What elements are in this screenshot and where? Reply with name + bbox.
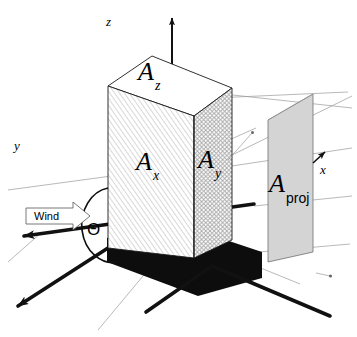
leader-line-proj bbox=[316, 273, 332, 278]
label-Ax-sub: x bbox=[152, 168, 160, 183]
label-Ax-base: A bbox=[134, 147, 152, 176]
label-Aproj-base: A bbox=[267, 169, 285, 198]
label-Ay-sub: y bbox=[213, 166, 222, 181]
label-Az-sub: z bbox=[154, 78, 161, 93]
label-Az-base: A bbox=[136, 57, 154, 86]
diagram-canvas: A z A x A y A proj z y x Θ Wind bbox=[0, 0, 357, 337]
axis-label-z: z bbox=[105, 14, 111, 29]
wind-label: Wind bbox=[34, 210, 59, 222]
wind-area-diagram: A z A x A y A proj z y x Θ Wind bbox=[0, 0, 357, 337]
label-Aproj-sub: proj bbox=[286, 190, 309, 206]
axis-label-y: y bbox=[12, 138, 20, 153]
axis-label-x: x bbox=[319, 162, 326, 177]
label-Ay-base: A bbox=[196, 145, 214, 174]
angle-label-theta: Θ bbox=[87, 220, 100, 239]
